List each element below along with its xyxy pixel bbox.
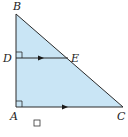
answer-checkbox[interactable] xyxy=(34,120,40,126)
triangle-diagram: B D E A C xyxy=(0,0,128,137)
label-e: E xyxy=(70,52,79,65)
label-a: A xyxy=(9,110,18,123)
label-d: D xyxy=(2,52,12,65)
label-b: B xyxy=(12,0,21,13)
label-c: C xyxy=(117,110,126,123)
